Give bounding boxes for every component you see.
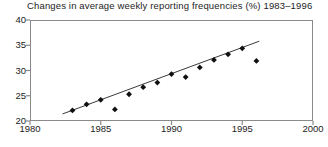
chart-container: Changes in average weekly reporting freq… bbox=[0, 0, 328, 147]
x-tick-label-1980: 1980 bbox=[10, 124, 50, 134]
y-tick-label-25: 25 bbox=[4, 91, 26, 101]
x-tick-label-1990: 1990 bbox=[152, 124, 192, 134]
chart-title: Changes in average weekly reporting freq… bbox=[27, 0, 312, 11]
y-tick-label-35: 35 bbox=[4, 40, 26, 50]
x-tick-label-2000: 2000 bbox=[293, 124, 328, 134]
x-tick-label-1995: 1995 bbox=[222, 124, 262, 134]
y-tick-label-30: 30 bbox=[4, 66, 26, 76]
x-tick-label-1985: 1985 bbox=[81, 124, 121, 134]
y-tick-label-40: 40 bbox=[4, 15, 26, 25]
plot-frame bbox=[30, 20, 313, 121]
